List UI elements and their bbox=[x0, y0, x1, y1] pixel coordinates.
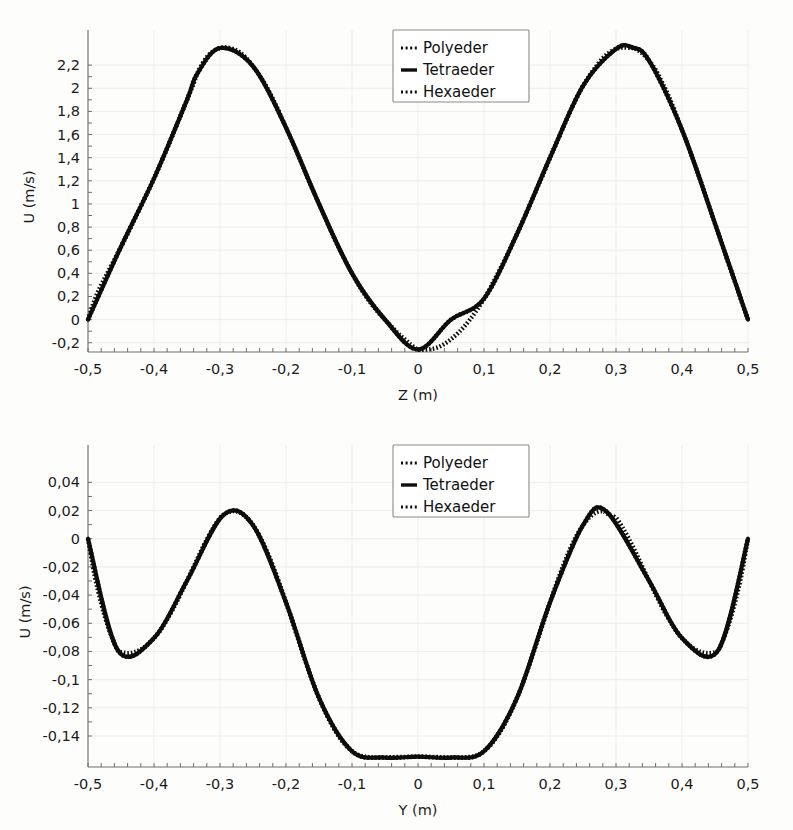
x-tick-label: -0,3 bbox=[206, 776, 234, 792]
x-tick-label: -0,2 bbox=[272, 776, 300, 792]
y-tick-label: 0,4 bbox=[57, 265, 80, 281]
x-tick-label: 0,4 bbox=[670, 776, 693, 792]
legend-label-polyeder: Polyeder bbox=[423, 454, 489, 472]
y-tick-label: -0,12 bbox=[42, 700, 80, 716]
y-tick-label: 0,6 bbox=[57, 242, 80, 258]
y-tick-label: 0,02 bbox=[48, 503, 80, 519]
y-tick-label: -0,04 bbox=[42, 587, 80, 603]
x-tick-label: 0,5 bbox=[736, 361, 759, 377]
x-tick-label: -0,4 bbox=[140, 776, 168, 792]
y-tick-label: -0,1 bbox=[52, 672, 80, 688]
y-tick-label: 1,6 bbox=[57, 127, 80, 143]
y-tick-label: 0,2 bbox=[57, 288, 80, 304]
x-tick-labels: -0,5-0,4-0,3-0,2-0,100,10,20,30,40,5 bbox=[74, 361, 760, 377]
x-tick-label: -0,1 bbox=[338, 776, 366, 792]
legend: PolyederTetraederHexaeder bbox=[393, 30, 529, 102]
y-tick-label: 1,8 bbox=[57, 103, 80, 119]
x-tick-label: 0,2 bbox=[538, 776, 561, 792]
figure-page: -0,5-0,4-0,3-0,2-0,100,10,20,30,40,5-0,2… bbox=[0, 0, 793, 830]
x-tick-label: 0,5 bbox=[736, 776, 759, 792]
y-tick-label: 0,04 bbox=[48, 474, 80, 490]
y-tick-labels: -0,200,20,40,60,811,21,41,61,822,2 bbox=[52, 57, 80, 351]
x-tick-label: 0 bbox=[413, 776, 422, 792]
y-tick-label: 0 bbox=[71, 312, 80, 328]
y-tick-label: 1 bbox=[71, 196, 80, 212]
x-tick-label: 0,1 bbox=[472, 361, 495, 377]
legend-label-hexaeder: Hexaeder bbox=[423, 498, 496, 516]
legend-label-polyeder: Polyeder bbox=[423, 39, 489, 57]
legend-label-tetraeder: Tetraeder bbox=[422, 61, 495, 79]
y-tick-label: 1,2 bbox=[57, 173, 80, 189]
y-tick-label: -0,02 bbox=[42, 559, 80, 575]
x-tick-label: 0,4 bbox=[670, 361, 693, 377]
y-tick-label: 0,8 bbox=[57, 219, 80, 235]
legend: PolyederTetraederHexaeder bbox=[393, 445, 529, 517]
x-axis-title: Z (m) bbox=[398, 387, 438, 403]
chart-top-svg: -0,5-0,4-0,3-0,2-0,100,10,20,30,40,5-0,2… bbox=[0, 0, 793, 415]
x-tick-label: -0,3 bbox=[206, 361, 234, 377]
x-tick-label: 0,2 bbox=[538, 361, 561, 377]
chart-bottom-svg: -0,5-0,4-0,3-0,2-0,100,10,20,30,40,5-0,1… bbox=[0, 415, 793, 830]
y-axis-title: U (m/s) bbox=[21, 170, 37, 223]
y-tick-label: -0,06 bbox=[42, 615, 80, 631]
y-tick-label: 0 bbox=[71, 531, 80, 547]
x-tick-label: 0,3 bbox=[604, 361, 627, 377]
legend-label-hexaeder: Hexaeder bbox=[423, 83, 496, 101]
x-tick-label: 0,3 bbox=[604, 776, 627, 792]
x-tick-label: -0,5 bbox=[74, 776, 102, 792]
y-tick-labels: -0,14-0,12-0,1-0,08-0,06-0,04-0,0200,020… bbox=[42, 474, 80, 744]
chart-panel-bottom: -0,5-0,4-0,3-0,2-0,100,10,20,30,40,5-0,1… bbox=[0, 415, 793, 830]
x-tick-label: 0,1 bbox=[472, 776, 495, 792]
x-tick-labels: -0,5-0,4-0,3-0,2-0,100,10,20,30,40,5 bbox=[74, 776, 760, 792]
x-tick-label: -0,2 bbox=[272, 361, 300, 377]
x-tick-label: 0 bbox=[413, 361, 422, 377]
y-tick-label: 2 bbox=[71, 80, 80, 96]
x-axis-title: Y (m) bbox=[398, 802, 438, 818]
x-tick-label: -0,1 bbox=[338, 361, 366, 377]
x-tick-label: -0,5 bbox=[74, 361, 102, 377]
y-tick-label: -0,2 bbox=[52, 335, 80, 351]
chart-panel-top: -0,5-0,4-0,3-0,2-0,100,10,20,30,40,5-0,2… bbox=[0, 0, 793, 415]
x-tick-label: -0,4 bbox=[140, 361, 168, 377]
y-tick-label: 2,2 bbox=[57, 57, 80, 73]
y-tick-label: -0,08 bbox=[42, 643, 80, 659]
y-axis-title: U (m/s) bbox=[17, 585, 33, 638]
legend-label-tetraeder: Tetraeder bbox=[422, 476, 495, 494]
y-tick-label: -0,14 bbox=[42, 728, 80, 744]
y-tick-label: 1,4 bbox=[57, 150, 80, 166]
